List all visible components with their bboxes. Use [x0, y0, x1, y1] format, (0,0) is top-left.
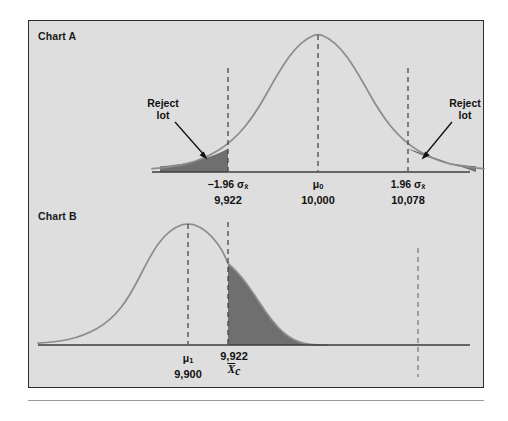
chart-a-tick-lower-critical: −1.96 σx̄ 9,922 [208, 178, 249, 206]
chart-b-tick-critical-value: 9,922 [220, 350, 248, 363]
chart-a-left-arrow-line [175, 122, 205, 156]
chart-a-tick-upper-symbol: 1.96 σx̄ [391, 178, 426, 194]
chart-a-tick-mean-symbol: μ0 [301, 178, 335, 194]
chart-a-lower-reject-shading [160, 149, 228, 173]
chart-a-tick-upper-critical: 1.96 σx̄ 10,078 [391, 178, 426, 206]
chart-a-right-reject-line2: lot [434, 110, 496, 122]
chart-a-left-reject-annotation: Reject lot [132, 98, 194, 121]
chart-a-tick-upper-value: 10,078 [391, 194, 426, 207]
chart-b-group [38, 222, 470, 377]
chart-a-left-reject-line2: lot [132, 110, 194, 122]
chart-b-title: Chart B [38, 210, 77, 222]
chart-b-tick-mean-value: 9,900 [174, 368, 202, 381]
chart-a-upper-reject-shading [408, 149, 476, 173]
chart-a-right-reject-annotation: Reject lot [434, 98, 496, 121]
chart-a-tick-mean: μ0 10,000 [301, 178, 335, 206]
chart-a-right-arrow-line [424, 122, 452, 156]
figure-root: Chart A Chart B Reject lot Reject lot −1… [0, 0, 508, 421]
chart-b-tick-critical-symbol: X̄c [220, 363, 248, 378]
figure-footer-rule [28, 400, 484, 401]
chart-b-beta-shading [228, 264, 328, 346]
chart-a-left-reject-line1: Reject [132, 98, 194, 110]
chart-b-tick-mean-symbol: μ1 [174, 352, 202, 368]
chart-a-title: Chart A [38, 30, 76, 42]
chart-b-tick-critical: 9,922 X̄c [220, 350, 248, 377]
chart-b-tick-mean: μ1 9,900 [174, 352, 202, 380]
chart-a-tick-lower-value: 9,922 [208, 194, 249, 207]
chart-a-tick-lower-symbol: −1.96 σx̄ [208, 178, 249, 194]
chart-b-normal-curve [38, 224, 328, 345]
chart-a-right-reject-line1: Reject [434, 98, 496, 110]
chart-a-tick-mean-value: 10,000 [301, 194, 335, 207]
